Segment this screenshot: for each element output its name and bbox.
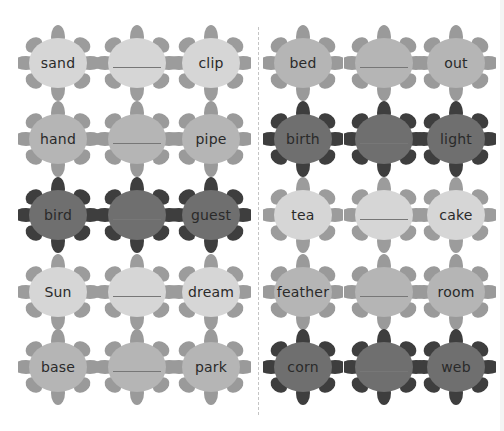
flower-word: room [416,254,496,330]
answer-blank-line[interactable] [360,371,408,372]
answer-blank-line[interactable] [360,143,408,144]
word-flower: sand [18,25,98,101]
word-flower: birth [263,101,343,177]
blank-flower[interactable] [344,254,424,330]
page-edge [500,0,504,431]
flower-icon [97,329,177,405]
blank-flower[interactable] [97,177,177,253]
column-divider [258,27,259,415]
answer-blank-line[interactable] [360,219,408,220]
flower-word: pipe [171,101,251,177]
flower-icon [97,101,177,177]
flower-word: clip [171,25,251,101]
flower-icon [97,254,177,330]
flower-center [355,114,413,164]
flower-word: Sun [18,254,98,330]
flower-center [108,38,166,88]
word-flower: cake [416,177,496,253]
answer-blank-line[interactable] [360,67,408,68]
blank-flower[interactable] [344,101,424,177]
flower-word: tea [263,177,343,253]
flower-center [355,267,413,317]
blank-flower[interactable] [344,177,424,253]
blank-flower[interactable] [97,254,177,330]
flower-icon [344,329,424,405]
flower-icon [344,254,424,330]
word-flower: corn [263,329,343,405]
answer-blank-line[interactable] [113,371,161,372]
flower-center [355,342,413,392]
flower-icon [97,25,177,101]
flower-word: bed [263,25,343,101]
flower-word: out [416,25,496,101]
flower-icon [344,25,424,101]
word-flower: web [416,329,496,405]
flower-word: hand [18,101,98,177]
blank-flower[interactable] [97,25,177,101]
answer-blank-line[interactable] [113,219,161,220]
flower-center [108,190,166,240]
blank-flower[interactable] [97,101,177,177]
flower-center [355,190,413,240]
flower-word: cake [416,177,496,253]
word-flower: dream [171,254,251,330]
answer-blank-line[interactable] [113,143,161,144]
word-flower: out [416,25,496,101]
flower-word: sand [18,25,98,101]
flower-word: feather [263,254,343,330]
word-flower: light [416,101,496,177]
answer-blank-line[interactable] [360,296,408,297]
answer-blank-line[interactable] [113,67,161,68]
flower-word: base [18,329,98,405]
flower-word: park [171,329,251,405]
flower-center [108,342,166,392]
blank-flower[interactable] [344,25,424,101]
word-flower: room [416,254,496,330]
word-flower: tea [263,177,343,253]
blank-flower[interactable] [97,329,177,405]
word-flower: guest [171,177,251,253]
flower-word: birth [263,101,343,177]
flower-center [108,114,166,164]
word-flower: clip [171,25,251,101]
flower-icon [344,101,424,177]
flower-word: corn [263,329,343,405]
flower-word: web [416,329,496,405]
word-flower: park [171,329,251,405]
word-flower: Sun [18,254,98,330]
flower-word: light [416,101,496,177]
word-flower: bed [263,25,343,101]
flower-center [108,267,166,317]
flower-icon [344,177,424,253]
word-flower: bird [18,177,98,253]
word-flower: hand [18,101,98,177]
word-flower: base [18,329,98,405]
flower-word: dream [171,254,251,330]
flower-word: bird [18,177,98,253]
flower-word: guest [171,177,251,253]
answer-blank-line[interactable] [113,296,161,297]
flower-center [355,38,413,88]
word-flower: pipe [171,101,251,177]
word-flower: feather [263,254,343,330]
flower-icon [97,177,177,253]
blank-flower[interactable] [344,329,424,405]
